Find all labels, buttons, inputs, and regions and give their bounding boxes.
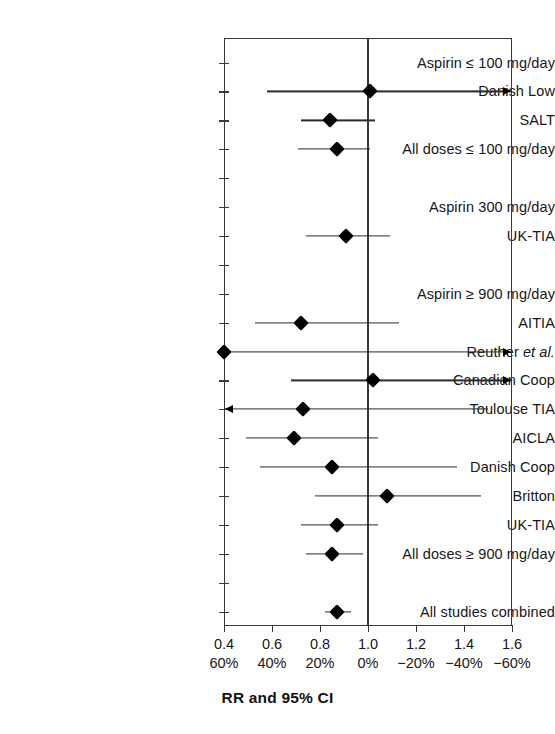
null-reference-line bbox=[367, 38, 368, 626]
x-tick-label-percent: −20% bbox=[397, 655, 435, 671]
point-estimate-marker bbox=[286, 430, 302, 446]
point-estimate-marker bbox=[295, 402, 311, 418]
confidence-interval-line bbox=[267, 91, 512, 92]
point-estimate-marker bbox=[339, 228, 355, 244]
x-tick-label-rr: 0.8 bbox=[310, 636, 330, 652]
ci-arrow-right-icon bbox=[503, 376, 511, 384]
ci-arrow-left-icon bbox=[225, 405, 233, 413]
point-estimate-marker bbox=[329, 517, 345, 533]
confidence-interval-line bbox=[255, 322, 399, 323]
confidence-interval-line bbox=[301, 120, 375, 121]
point-estimate-marker bbox=[329, 141, 345, 157]
point-estimate-marker bbox=[293, 315, 309, 331]
x-tick bbox=[320, 625, 321, 632]
x-tick-label-percent: 20% bbox=[305, 655, 334, 671]
y-tick bbox=[219, 323, 229, 324]
y-tick bbox=[219, 149, 229, 150]
confidence-interval-line bbox=[315, 495, 481, 496]
y-tick bbox=[219, 612, 229, 613]
x-tick-label-percent: −40% bbox=[445, 655, 483, 671]
x-tick bbox=[224, 625, 225, 632]
ci-arrow-right-icon bbox=[503, 87, 511, 95]
y-tick bbox=[219, 265, 229, 266]
x-tick bbox=[416, 625, 417, 632]
y-tick bbox=[219, 178, 229, 179]
x-tick bbox=[368, 625, 369, 632]
x-tick-label-percent: −60% bbox=[493, 655, 531, 671]
y-tick bbox=[219, 467, 229, 468]
x-tick-label-rr: 1.4 bbox=[454, 636, 474, 652]
x-tick-label-rr: 0.4 bbox=[214, 636, 234, 652]
point-estimate-marker bbox=[329, 604, 345, 620]
y-tick bbox=[219, 583, 229, 584]
x-tick bbox=[272, 625, 273, 632]
y-tick bbox=[219, 380, 229, 381]
y-tick bbox=[219, 120, 229, 121]
point-estimate-marker bbox=[324, 546, 340, 562]
point-estimate-marker bbox=[324, 459, 340, 475]
y-tick bbox=[219, 91, 229, 92]
y-tick bbox=[219, 438, 229, 439]
x-tick-label-rr: 0.6 bbox=[262, 636, 282, 652]
point-estimate-marker bbox=[322, 113, 338, 129]
plot-area bbox=[224, 38, 512, 626]
point-estimate-marker bbox=[216, 344, 232, 360]
x-tick bbox=[512, 625, 513, 632]
axis-frame-right bbox=[511, 38, 512, 626]
confidence-interval-line bbox=[224, 351, 512, 352]
y-tick bbox=[219, 525, 229, 526]
y-tick bbox=[219, 294, 229, 295]
confidence-interval-line bbox=[260, 466, 457, 467]
x-tick bbox=[464, 625, 465, 632]
y-tick bbox=[219, 63, 229, 64]
y-tick bbox=[219, 554, 229, 555]
forest-plot-figure: Aspirin ≤ 100 mg/dayDanish LowSALTAll do… bbox=[0, 0, 555, 734]
point-estimate-marker bbox=[379, 488, 395, 504]
x-tick-label-percent: 0% bbox=[358, 655, 379, 671]
y-tick bbox=[219, 207, 229, 208]
x-tick-label-percent: 40% bbox=[257, 655, 286, 671]
x-tick-label-rr: 1.2 bbox=[406, 636, 426, 652]
ci-arrow-right-icon bbox=[503, 348, 511, 356]
y-tick bbox=[219, 236, 229, 237]
x-tick-label-percent: 60% bbox=[209, 655, 238, 671]
x-tick-label-rr: 1.6 bbox=[502, 636, 522, 652]
confidence-interval-line bbox=[224, 409, 488, 410]
x-axis-title: RR and 95% CI bbox=[0, 689, 555, 707]
confidence-interval-line bbox=[291, 380, 512, 381]
point-estimate-marker bbox=[363, 84, 379, 100]
x-tick-label-rr: 1.0 bbox=[358, 636, 378, 652]
y-tick bbox=[219, 496, 229, 497]
axis-frame-left bbox=[224, 38, 225, 626]
confidence-interval-line bbox=[246, 438, 378, 439]
